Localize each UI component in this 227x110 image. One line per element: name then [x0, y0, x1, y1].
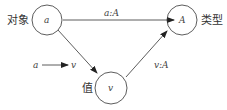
- object-label: 对象: [7, 13, 29, 27]
- object-symbol: a: [44, 15, 49, 25]
- type-diagram: a A v 对象 类型 值 a:A v:A a v: [0, 0, 227, 110]
- edge-label-object-type: a:A: [104, 8, 119, 18]
- edge-label-value-type: v:A: [154, 60, 169, 70]
- type-label: 类型: [201, 13, 223, 27]
- legend-to: v: [71, 60, 76, 70]
- legend-from: a: [33, 60, 38, 70]
- value-symbol: v: [108, 83, 113, 93]
- type-symbol: A: [178, 15, 186, 25]
- value-label: 值: [82, 82, 93, 95]
- edge-value-type: [126, 31, 167, 77]
- edge-object-value: [58, 30, 97, 73]
